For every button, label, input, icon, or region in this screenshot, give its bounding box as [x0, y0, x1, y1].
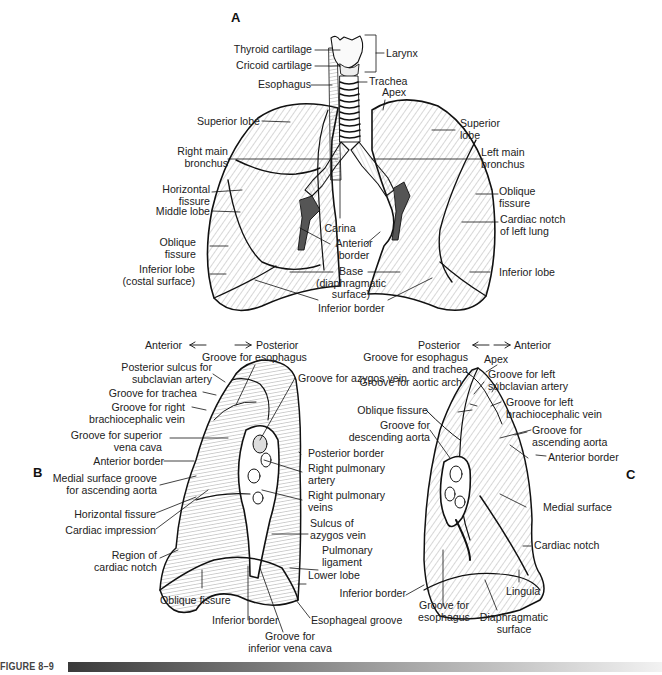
label-posterior-border-b: Posterior border — [308, 448, 384, 460]
panel-b-art — [156, 342, 318, 632]
label-groove-esophagus-c: Groove for esophagus — [418, 600, 470, 623]
label-inferior-lobe-left: Inferior lobe — [499, 267, 555, 279]
label-inferior-lobe-right: Inferior lobe (costal surface) — [123, 264, 195, 287]
orientation-anterior-c: Anterior — [514, 340, 551, 352]
label-horizontal-fissure-b: Horizontal fissure — [74, 509, 156, 521]
label-superior-lobe-left: Superior lobe — [460, 118, 500, 141]
lung-anatomy-figure: A B C Thyroid cartilage Cricoid cartilag… — [0, 0, 662, 675]
label-posterior-sulcus: Posterior sulcus for subclavian artery — [121, 362, 212, 385]
label-groove-aortic-arch: Groove for aortic arch — [360, 377, 462, 389]
label-groove-left-subclavian: Groove for left subclavian artery — [488, 369, 568, 392]
label-right-pulmonary-veins: Right pulmonary veins — [308, 490, 385, 513]
label-groove-descending-aorta: Groove for descending aorta — [349, 420, 430, 443]
label-groove-trachea: Groove for trachea — [109, 388, 197, 400]
panel-a-letter: A — [231, 10, 240, 25]
label-groove-svc: Groove for superior vena cava — [71, 430, 162, 453]
label-middle-lobe: Middle lobe — [156, 206, 210, 218]
label-cardiac-impression: Cardiac impression — [65, 525, 156, 537]
label-superior-lobe-right: Superior lobe — [197, 116, 260, 128]
label-cardiac-notch-c: Cardiac notch — [534, 540, 599, 552]
label-groove-esophagus-b: Groove for esophagus — [202, 352, 307, 364]
label-anterior-border-b: Anterior border — [93, 456, 164, 468]
orientation-posterior-b: Posterior — [256, 340, 298, 352]
label-apex-c: Apex — [484, 354, 508, 366]
orientation-anterior-b: Anterior — [145, 340, 182, 352]
label-base-diaphragmatic: Base (diaphragmatic surface) — [312, 266, 390, 301]
label-lingula: Lingula — [506, 586, 540, 598]
label-diaphragmatic-surface: Diaphragmatic surface — [474, 612, 554, 635]
label-sulcus-azygos: Sulcus of azygos vein — [310, 518, 366, 541]
label-cricoid-cartilage: Cricoid cartilage — [236, 60, 312, 72]
label-left-main-bronchus: Left main bronchus — [481, 147, 525, 170]
label-oblique-fissure-right: Oblique fissure — [159, 237, 196, 260]
label-cardiac-notch-left-lung: Cardiac notch of left lung — [500, 214, 565, 237]
label-medial-surface: Medial surface — [543, 502, 612, 514]
label-groove-ascending-aorta: Groove for ascending aorta — [532, 425, 607, 448]
panel-c-letter: C — [626, 467, 635, 482]
orientation-posterior-c: Posterior — [418, 340, 460, 352]
label-anterior-border-c: Anterior border — [548, 452, 619, 464]
label-pulmonary-ligament: Pulmonary ligament — [322, 545, 373, 568]
label-region-cardiac-notch: Region of cardiac notch — [94, 550, 157, 573]
label-anterior-border-a: Anterior border — [330, 238, 378, 261]
label-thyroid-cartilage: Thyroid cartilage — [234, 44, 312, 56]
label-oblique-fissure-left: Oblique fissure — [499, 186, 536, 209]
label-groove-right-brachiocephalic: Groove for right brachiocephalic vein — [89, 402, 185, 425]
label-inferior-border-b: Inferior border — [212, 615, 279, 627]
panel-b-letter: B — [33, 465, 42, 480]
label-groove-esophagus-trachea: Groove for esophagus and trachea — [363, 352, 468, 375]
label-carina: Carina — [318, 223, 362, 235]
label-right-pulmonary-artery: Right pulmonary artery — [308, 463, 385, 486]
label-oblique-fissure-c: Oblique fissure — [357, 405, 428, 417]
caption-gradient-bar — [68, 662, 662, 672]
label-apex-a: Apex — [382, 87, 406, 99]
label-inferior-border-a: Inferior border — [318, 303, 385, 315]
label-esophageal-groove: Esophageal groove — [311, 615, 402, 627]
label-groove-ivc: Groove for inferior vena cava — [240, 631, 340, 654]
label-groove-left-brachiocephalic: Groove for left brachiocephalic vein — [506, 397, 602, 420]
label-medial-surface-groove: Medial surface groove for ascending aort… — [53, 473, 157, 496]
label-esophagus: Esophagus — [258, 79, 311, 91]
label-oblique-fissure-b: Oblique fissure — [160, 595, 231, 607]
label-lower-lobe: Lower lobe — [308, 570, 360, 582]
label-larynx: Larynx — [386, 48, 418, 60]
label-right-main-bronchus: Right main bronchus — [177, 146, 228, 169]
label-inferior-border-c: Inferior border — [339, 588, 406, 600]
figure-caption: FIGURE 8–9 — [0, 660, 54, 672]
label-horizontal-fissure: Horizontal fissure — [162, 184, 210, 207]
